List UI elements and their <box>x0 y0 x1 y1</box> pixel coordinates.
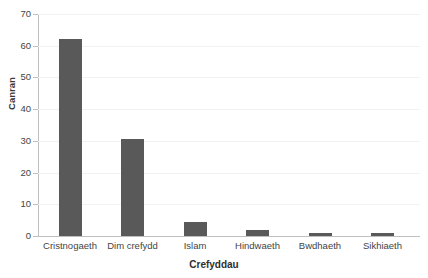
bar <box>184 222 207 236</box>
gridline <box>38 77 420 78</box>
y-axis-tick-label-wrap: 60 <box>0 41 31 51</box>
gridline <box>38 141 420 142</box>
gridline <box>38 236 420 237</box>
bar <box>59 39 82 236</box>
y-axis-tick-label-wrap: 70 <box>0 9 31 19</box>
bar <box>371 233 394 236</box>
x-axis-tick-label: Sikhiaeth <box>333 240 428 251</box>
y-axis-tick-label-wrap: 10 <box>0 199 31 209</box>
x-axis-title: Crefyddau <box>0 259 428 270</box>
y-axis-tick-label-wrap: 20 <box>0 168 31 178</box>
y-axis-tick-label: 20 <box>3 168 31 178</box>
gridline <box>38 46 420 47</box>
y-axis-tick-label: 40 <box>3 104 31 114</box>
y-axis-tick-label: 70 <box>3 9 31 19</box>
gridline <box>38 109 420 110</box>
gridline <box>38 14 420 15</box>
plot-area <box>38 14 420 236</box>
gridline <box>38 173 420 174</box>
y-axis-tick-label: 60 <box>3 41 31 51</box>
bar-chart: Crefyddau yng Nghymru Canran 01020304050… <box>0 0 428 278</box>
y-axis-tick-label-wrap: 30 <box>0 136 31 146</box>
bar <box>246 230 269 236</box>
bar <box>309 233 332 236</box>
y-axis-tick-label-wrap: 40 <box>0 104 31 114</box>
y-axis-tick-label: 10 <box>3 199 31 209</box>
bar <box>121 139 144 236</box>
gridline <box>38 204 420 205</box>
y-axis-tick-label: 30 <box>3 136 31 146</box>
y-axis-tick-label-wrap: 50 <box>0 72 31 82</box>
y-axis-tick-label: 50 <box>3 72 31 82</box>
